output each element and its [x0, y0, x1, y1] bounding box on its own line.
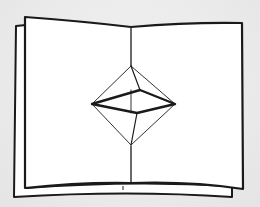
illustration-canvas: pop-up book with octahedron [0, 0, 260, 207]
popup-book-drawing [0, 0, 260, 207]
front-sheet [25, 17, 243, 189]
